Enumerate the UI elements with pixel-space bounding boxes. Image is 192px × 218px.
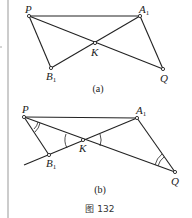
segment-PA1 [24, 117, 137, 118]
segment-PB1 [24, 117, 49, 155]
angle-mark-Q-inner [158, 157, 164, 166]
angle-mark-K-right [100, 134, 101, 146]
segment-A1Q [137, 118, 175, 172]
point-Q [173, 170, 176, 173]
point-Q [161, 67, 164, 70]
point-K [93, 41, 96, 44]
point-A1 [135, 116, 138, 119]
label-A1-b: A1 [135, 104, 147, 118]
label-Q-b: Q [171, 175, 179, 187]
panel-a [27, 14, 164, 70]
label-Q-a: Q [160, 72, 168, 84]
figure-caption: 图 132 [85, 204, 114, 214]
label-K-a: K [90, 46, 99, 58]
label-B1-a: B1 [46, 70, 57, 84]
label-B1-b: B1 [46, 157, 57, 171]
label-A1-a: A1 [138, 3, 150, 17]
point-P [22, 115, 25, 118]
figure-132: P A1 K B1 Q (a) P A1 K B1 Q (b) 图 132 [0, 0, 192, 218]
label-K-b: K [78, 142, 87, 154]
label-P-a: P [24, 3, 32, 15]
label-P-b: P [21, 103, 29, 115]
angle-mark-K-left [65, 134, 67, 148]
angle-mark-P-inner [34, 122, 38, 129]
caption-a: (a) [92, 83, 103, 95]
caption-b: (b) [94, 184, 106, 196]
